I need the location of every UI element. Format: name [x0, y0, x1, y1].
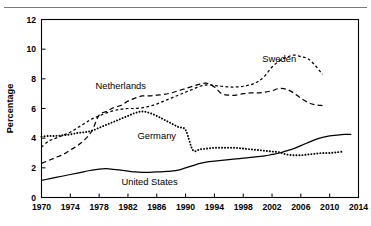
x-tick-label-7: 1998: [234, 202, 253, 212]
y-axis-title: Percentage: [5, 84, 15, 134]
x-tick-label-9: 2006: [291, 202, 310, 212]
x-tick-label-3: 1982: [118, 202, 137, 212]
x-tick-label-8: 2002: [262, 202, 281, 212]
series-line-germany: [42, 111, 345, 155]
y-tick-label-4: 8: [31, 74, 36, 84]
series-line-netherlands: [42, 83, 323, 163]
series-line-united-states: [42, 134, 352, 180]
x-tick-label-6: 1994: [205, 202, 224, 212]
series-label-netherlands: Netherlands: [95, 80, 146, 91]
x-tick-label-10: 2010: [320, 202, 339, 212]
x-tick-label-5: 1990: [176, 202, 195, 212]
line-chart: 0246810121970197419781982198619901994199…: [0, 0, 371, 226]
x-tick-label-1: 1974: [61, 202, 80, 212]
y-tick-label-6: 12: [26, 15, 36, 25]
x-tick-label-4: 1986: [147, 202, 166, 212]
y-tick-label-3: 6: [31, 104, 36, 114]
y-tick-label-1: 2: [31, 163, 36, 173]
series-label-united-states: United States: [121, 176, 178, 187]
series-label-germany: Germany: [137, 130, 176, 141]
x-tick-label-0: 1970: [32, 202, 51, 212]
horizontal-rule: [4, 7, 367, 8]
y-tick-label-2: 4: [31, 133, 36, 143]
y-tick-label-5: 10: [26, 44, 36, 54]
x-tick-label-2: 1978: [90, 202, 109, 212]
figure-container: 0246810121970197419781982198619901994199…: [0, 0, 371, 226]
x-tick-label-11: 2014: [349, 202, 368, 212]
series-label-sweden: Sweden: [262, 53, 296, 64]
